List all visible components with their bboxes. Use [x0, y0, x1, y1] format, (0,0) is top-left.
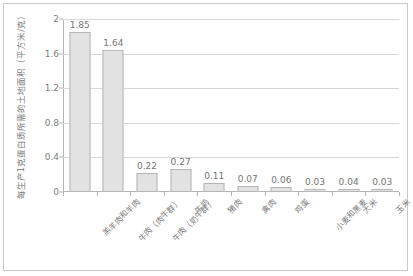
- x-category-label: 鸡蛋: [292, 196, 311, 215]
- y-tick-label: 0.4: [29, 152, 59, 162]
- x-category-label: 玉米: [393, 196, 412, 215]
- bar-slot: 0.04: [332, 19, 366, 192]
- bar-value-label: 1.64: [103, 38, 123, 48]
- y-tick-label: 0: [29, 187, 59, 197]
- bar[interactable]: [136, 173, 157, 192]
- bar-slot: 0.06: [265, 19, 299, 192]
- bar-value-label: 0.22: [137, 161, 157, 171]
- bar-value-label: 0.11: [204, 171, 224, 181]
- bar-value-label: 1.85: [70, 20, 90, 30]
- bar-value-label: 0.27: [171, 157, 191, 167]
- y-tick-label: 1.6: [29, 49, 59, 59]
- x-axis-category-labels: 羔羊肉和羊肉牛肉（肉牛群）牛肉（奶牛群）牛奶猪肉禽肉鸡蛋小麦和黑麦大米玉米: [63, 196, 399, 272]
- x-category-label: 禽肉: [258, 196, 277, 215]
- x-category-label: 羔羊肉和羊肉: [100, 196, 142, 238]
- bars-layer: 1.851.640.220.270.110.070.060.030.040.03: [63, 19, 399, 192]
- bar[interactable]: [103, 50, 124, 192]
- bar[interactable]: [204, 183, 225, 193]
- x-tick-mark: [399, 192, 400, 196]
- bar-value-label: 0.04: [339, 177, 359, 187]
- bar-slot: 0.03: [298, 19, 332, 192]
- bar-slot: 0.11: [197, 19, 231, 192]
- y-tick-label: 0.8: [29, 118, 59, 128]
- bar-slot: 0.27: [164, 19, 198, 192]
- bar-slot: 1.64: [97, 19, 131, 192]
- x-category-label: 猪肉: [225, 196, 244, 215]
- y-tick-label: 2: [29, 14, 59, 24]
- bar-value-label: 0.06: [271, 175, 291, 185]
- bar-slot: 1.85: [63, 19, 97, 192]
- bar-slot: 0.07: [231, 19, 265, 192]
- x-category-label: 小麦和黑麦: [333, 196, 369, 232]
- bar[interactable]: [69, 32, 90, 192]
- bar-value-label: 0.03: [372, 177, 392, 187]
- bar-chart: 每生产1克蛋白质所需的土地面积（平方米/克） 00.40.81.21.62 1.…: [0, 0, 413, 276]
- bar-value-label: 0.03: [305, 177, 325, 187]
- bar[interactable]: [170, 169, 191, 192]
- bar-value-label: 0.07: [238, 174, 258, 184]
- y-tick-label: 1.2: [29, 83, 59, 93]
- bar-slot: 0.03: [365, 19, 399, 192]
- bar-slot: 0.22: [130, 19, 164, 192]
- y-axis-tick-labels: 00.40.81.21.62: [25, 19, 59, 192]
